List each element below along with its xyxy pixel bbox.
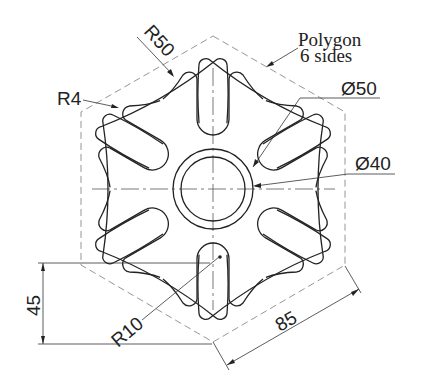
dia40-label: Ø40	[355, 153, 391, 174]
polygon-note-leader	[266, 48, 298, 67]
r50-label: R50	[140, 21, 179, 61]
polygon-note-line2: 6 sides	[300, 45, 352, 66]
drawing-canvas: Ø50 Ø40 Polygon 6 sides R50 R4 R10 45	[0, 0, 441, 389]
dim45-label: 45	[23, 295, 44, 316]
r4-leader	[83, 100, 119, 108]
dim85-label: 85	[272, 307, 301, 336]
dia50-label: Ø50	[341, 78, 377, 99]
dia40-leader	[253, 174, 395, 188]
r4-label: R4	[57, 88, 82, 109]
r10-label: R10	[107, 313, 147, 351]
r10-leader	[142, 255, 222, 320]
